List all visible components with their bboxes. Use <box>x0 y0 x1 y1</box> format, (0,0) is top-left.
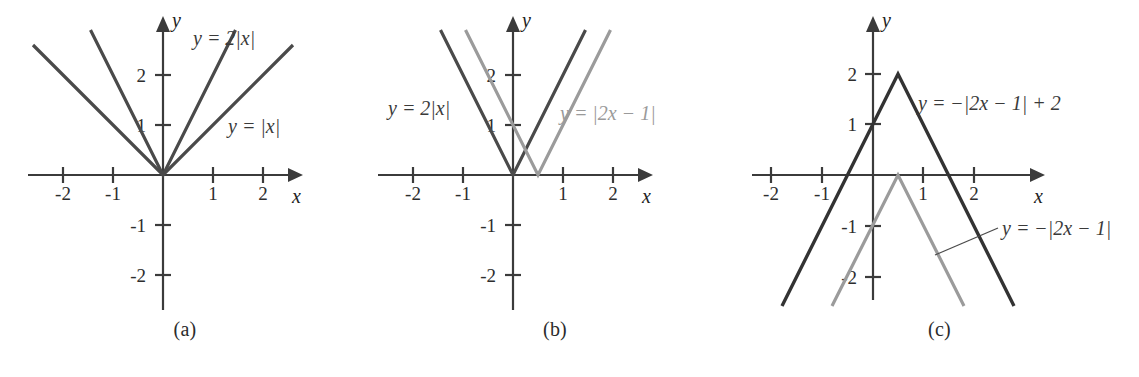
y-tick-label--2: -2 <box>130 265 146 286</box>
curve-label-neg-abs-plus-2: y = −|2x − 1| + 2 <box>916 92 1061 115</box>
x-tick-label--1: -1 <box>455 183 471 204</box>
y-tick-label--2: -2 <box>480 265 496 286</box>
y-tick-label-2: 2 <box>137 65 147 86</box>
y-tick-label--1: -1 <box>480 215 496 236</box>
x-axis-arrow <box>288 168 303 182</box>
y-axis-arrow <box>866 16 880 32</box>
x-tick-label-1: 1 <box>558 183 568 204</box>
y-axis-arrow <box>506 16 520 32</box>
panel-c-plot: -2 -1 1 2 2 1 -1 -2 x y y = −|2x − 1| + … <box>740 0 1139 320</box>
x-tick-label-1: 1 <box>208 183 218 204</box>
panel-a-plot: -2 -1 1 2 2 1 -1 -2 x y y = 2|x| y = |x| <box>0 0 370 320</box>
x-axis-label: x <box>291 185 301 207</box>
curve-label-neg-abs: y = −|2x − 1| <box>1000 217 1111 240</box>
panel-b-plot: -2 -1 1 2 2 1 -1 -2 x y y = 2|x| y = |2x… <box>370 0 740 320</box>
y-axis-label: y <box>520 9 531 32</box>
y-tick-label--1: -1 <box>841 216 857 237</box>
x-tick-label--2: -2 <box>405 183 421 204</box>
x-tick-label--2: -2 <box>55 183 71 204</box>
x-axis-label: x <box>641 185 651 207</box>
x-tick-label-1: 1 <box>918 183 928 204</box>
y-tick-label-2: 2 <box>848 64 858 85</box>
curve-label-2abs-x: y = 2|x| <box>191 27 255 50</box>
y-axis-arrow <box>156 16 170 32</box>
panel-a: -2 -1 1 2 2 1 -1 -2 x y y = 2|x| y = |x|… <box>0 0 370 377</box>
curve-label-abs-2x-minus-1: y = |2x − 1| <box>558 102 656 125</box>
curve-label-2abs-x: y = 2|x| <box>386 97 450 120</box>
x-tick-label-2: 2 <box>258 183 268 204</box>
panel-c: -2 -1 1 2 2 1 -1 -2 x y y = −|2x − 1| + … <box>740 0 1139 377</box>
y-tick-label--1: -1 <box>130 215 146 236</box>
x-tick-label-2: 2 <box>969 183 979 204</box>
y-axis-label: y <box>880 9 891 32</box>
panel-b-caption: (b) <box>370 318 740 341</box>
x-tick-label-2: 2 <box>608 183 618 204</box>
x-axis-arrow <box>638 168 653 182</box>
panel-a-caption: (a) <box>0 318 370 341</box>
x-axis-arrow <box>1030 168 1045 182</box>
figure-container: -2 -1 1 2 2 1 -1 -2 x y y = 2|x| y = |x|… <box>0 0 1139 377</box>
y-axis-label: y <box>170 9 181 32</box>
curve-label-abs-x: y = |x| <box>226 115 280 138</box>
panel-c-caption: (c) <box>740 318 1139 341</box>
x-tick-label--2: -2 <box>763 183 779 204</box>
y-tick-label-1: 1 <box>848 114 858 135</box>
x-axis-label: x <box>1033 185 1043 207</box>
x-tick-label--1: -1 <box>814 183 830 204</box>
panel-b: -2 -1 1 2 2 1 -1 -2 x y y = 2|x| y = |2x… <box>370 0 740 377</box>
x-tick-label--1: -1 <box>105 183 121 204</box>
leader-line <box>935 228 998 255</box>
